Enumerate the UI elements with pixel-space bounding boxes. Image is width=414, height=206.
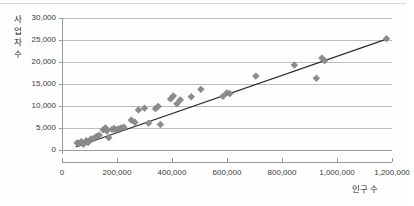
data-point — [141, 105, 148, 112]
x-tick-label-1: 200,000 — [87, 168, 147, 177]
data-point — [197, 86, 204, 93]
data-point — [157, 121, 164, 128]
y-tick-label-6: 30,000 — [18, 13, 56, 22]
y-tick-label-2: 10,000 — [18, 101, 56, 110]
y-tick-label-3: 15,000 — [18, 79, 56, 88]
data-point — [383, 35, 390, 42]
data-point — [135, 107, 142, 114]
x-tick-label-6: 1,200,000 — [362, 168, 414, 177]
x-tick-label-5: 1,000,000 — [307, 168, 367, 177]
data-point — [252, 73, 259, 80]
y-tick-label-1: 5,000 — [18, 123, 56, 132]
y-tick-label-0: 0 — [18, 145, 56, 154]
x-tick-label-2: 400,000 — [142, 168, 202, 177]
x-tick-label-0: 0 — [32, 168, 92, 177]
data-point — [105, 134, 112, 141]
y-tick-label-4: 20,000 — [18, 57, 56, 66]
y-tick-label-5: 25,000 — [18, 35, 56, 44]
data-point — [313, 75, 320, 82]
x-tick-label-3: 600,000 — [197, 168, 257, 177]
data-point — [188, 93, 195, 100]
x-tick-label-4: 800,000 — [252, 168, 312, 177]
